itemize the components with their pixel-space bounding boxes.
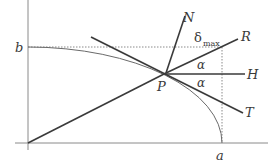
ellipse-reflection-diagram: b a P N R H T α α δ max (0, 0, 278, 164)
label-delta-sub: max (203, 39, 220, 48)
label-N: N (182, 10, 195, 25)
label-a: a (216, 148, 224, 163)
label-T: T (245, 105, 255, 120)
line-origin-to-P (28, 73, 166, 143)
tangent-line-PT (91, 37, 243, 113)
label-alpha-upper: α (197, 58, 205, 72)
label-b: b (15, 40, 23, 55)
label-R: R (240, 29, 251, 44)
label-delta: δ (194, 30, 202, 45)
label-alpha-lower: α (197, 76, 205, 90)
label-H: H (246, 67, 259, 82)
label-P: P (156, 79, 166, 94)
